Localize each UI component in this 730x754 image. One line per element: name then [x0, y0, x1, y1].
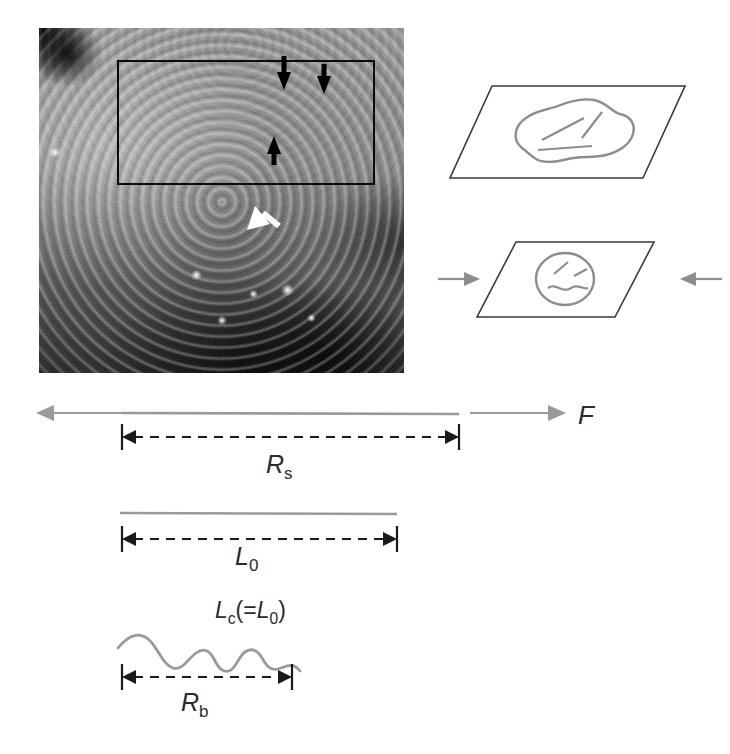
compression-arrow-left	[438, 272, 480, 286]
relaxed-fibre-row	[0, 500, 460, 570]
dimension-line-rb	[122, 664, 292, 690]
l0-dimension-label: L0	[235, 542, 258, 576]
compressed-plane	[477, 242, 654, 317]
crimped-fibre-line	[118, 635, 300, 671]
black-arrow-down-1	[277, 56, 291, 90]
compression-arrow-right	[680, 272, 722, 286]
relaxed-plane	[450, 86, 685, 178]
figure-canvas: F Rs L0 Lc(=L0) Rb	[0, 0, 730, 754]
relaxed-fibre-line	[120, 513, 397, 514]
micrograph-annotation-arrows	[39, 28, 404, 373]
stretched-fibre-line	[122, 413, 459, 414]
force-label: F	[578, 400, 594, 431]
black-arrow-down-2	[317, 64, 331, 94]
rb-dimension-label: Rb	[181, 688, 209, 722]
dimension-line-l0	[122, 526, 397, 552]
dimension-line-rs	[122, 424, 459, 450]
lc-contour-label: Lc(=L0)	[215, 597, 286, 628]
rs-dimension-label: Rs	[266, 450, 293, 484]
force-arrow-right	[470, 405, 566, 421]
plane-diagrams	[430, 60, 730, 350]
black-arrow-up-1	[267, 136, 281, 165]
sem-micrograph	[39, 28, 404, 373]
stretched-fibre-row	[0, 388, 640, 488]
white-arrow-down-1	[247, 206, 279, 230]
